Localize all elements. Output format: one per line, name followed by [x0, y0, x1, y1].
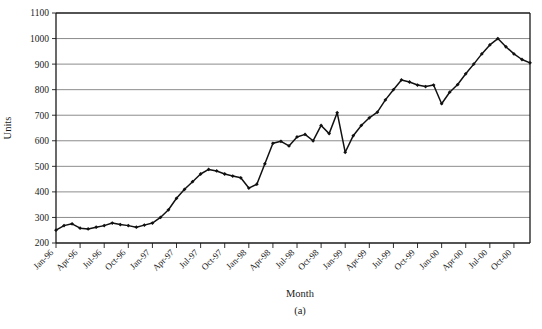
- x-tick-label: Apr-00: [440, 247, 466, 273]
- y-tick-label: 200: [35, 238, 50, 248]
- x-tick-label: Oct-96: [103, 247, 128, 272]
- x-tick-label: Jan-98: [224, 247, 248, 271]
- x-tick-label: Jul-96: [81, 247, 104, 270]
- figure-container: 20030040050060070080090010001100 Jan-96A…: [0, 0, 542, 329]
- y-axis-title: Units: [2, 117, 13, 140]
- y-axis-ticks: 20030040050060070080090010001100: [30, 8, 56, 248]
- y-tick-label: 700: [35, 111, 50, 121]
- x-tick-label: Apr-99: [343, 247, 369, 273]
- x-tick-label: Jul-98: [273, 247, 296, 270]
- x-tick-label: Jan-99: [321, 247, 345, 271]
- x-tick-label: Oct-97: [199, 247, 224, 272]
- line-chart: 20030040050060070080090010001100 Jan-96A…: [0, 0, 542, 329]
- y-tick-label: 900: [35, 60, 50, 70]
- x-tick-label: Oct-99: [392, 247, 417, 272]
- x-axis-ticks: Jan-96Apr-96Jul-96Oct-96Jan-97Apr-97Jul-…: [31, 243, 514, 273]
- x-tick-label: Apr-96: [54, 247, 80, 273]
- x-tick-label: Jan-00: [417, 247, 441, 271]
- y-tick-label: 300: [35, 213, 50, 223]
- figure-caption: (a): [294, 305, 306, 317]
- x-tick-label: Apr-98: [247, 247, 273, 273]
- x-axis-title: Month: [286, 288, 315, 299]
- x-tick-label: Oct-00: [489, 247, 514, 272]
- y-tick-label: 800: [35, 85, 50, 95]
- x-tick-label: Jul-00: [466, 247, 489, 270]
- x-tick-label: Jan-97: [128, 247, 152, 271]
- y-tick-label: 600: [35, 136, 50, 146]
- x-tick-label: Jan-96: [31, 247, 55, 271]
- y-tick-label: 1000: [30, 34, 49, 44]
- y-tick-label: 400: [35, 187, 50, 197]
- plot-background: [56, 13, 530, 243]
- x-tick-label: Apr-97: [151, 247, 177, 273]
- x-tick-label: Jul-97: [177, 247, 200, 270]
- x-tick-label: Jul-99: [370, 247, 393, 270]
- y-tick-label: 500: [35, 162, 50, 172]
- y-tick-label: 1100: [30, 8, 49, 18]
- x-tick-label: Oct-98: [296, 247, 321, 272]
